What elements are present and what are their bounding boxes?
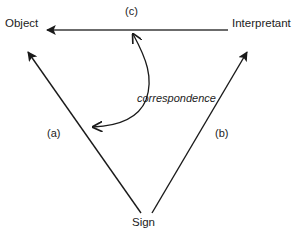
- curved-correspondence-arrow: [93, 34, 149, 127]
- vertex-label-object: Object: [5, 17, 38, 30]
- semiotic-triangle-diagram: [0, 0, 294, 239]
- edge-label-b: (b): [215, 127, 228, 140]
- annotation-label-correspondence: correspondence: [137, 92, 216, 105]
- arrow-sign-to-object: [28, 52, 141, 213]
- vertex-label-interpretant: Interpretant: [232, 17, 291, 30]
- vertex-label-sign: Sign: [132, 216, 155, 229]
- arrow-sign-to-interpretant: [152, 52, 247, 213]
- edge-label-c: (c): [125, 5, 138, 18]
- edge-label-a: (a): [47, 127, 60, 140]
